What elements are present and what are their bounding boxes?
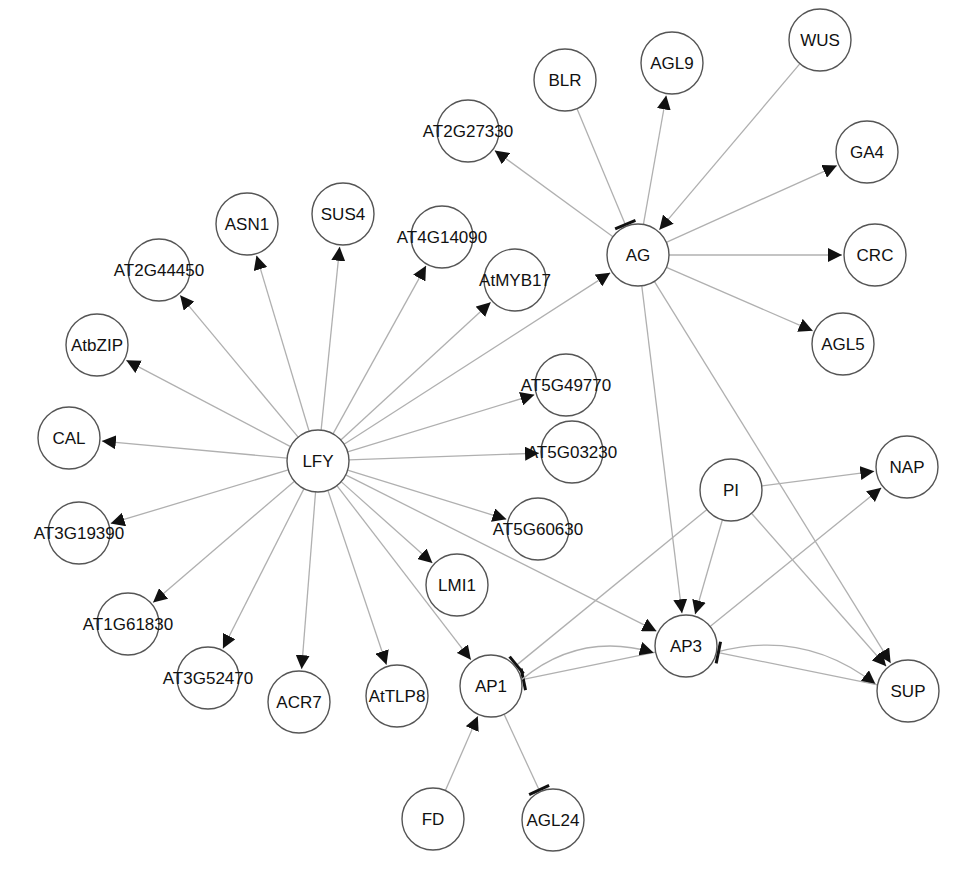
edge-lfy-activates-at5g03230 bbox=[349, 453, 539, 460]
node-wus[interactable]: WUS bbox=[789, 9, 851, 71]
node-lfy[interactable]: LFY bbox=[287, 430, 349, 492]
node-label: PI bbox=[723, 481, 739, 500]
node-at5g49770[interactable]: AT5G49770 bbox=[521, 354, 611, 416]
node-at1g61830[interactable]: AT1G61830 bbox=[83, 593, 173, 655]
node-label: CAL bbox=[52, 429, 85, 448]
node-crc[interactable]: CRC bbox=[844, 224, 906, 286]
node-label: AtbZIP bbox=[71, 336, 123, 355]
node-label: ACR7 bbox=[276, 693, 321, 712]
edge-lfy-activates-atbzip bbox=[126, 360, 290, 446]
node-label: AT5G49770 bbox=[521, 376, 611, 395]
node-asn1[interactable]: ASN1 bbox=[216, 193, 278, 255]
edge-lfy-activates-acr7 bbox=[302, 492, 316, 669]
node-label: SUP bbox=[891, 682, 926, 701]
node-cal[interactable]: CAL bbox=[38, 407, 100, 469]
node-at5g03230[interactable]: AT5G03230 bbox=[527, 421, 617, 483]
node-ga4[interactable]: GA4 bbox=[836, 121, 898, 183]
network-diagram: LFYAGBLRAGL9WUSGA4CRCAGL5AT2G27330ASN1SU… bbox=[0, 0, 965, 874]
node-nap[interactable]: NAP bbox=[876, 436, 938, 498]
edge-fd-activates-ap1 bbox=[445, 716, 477, 790]
node-lmi1[interactable]: LMI1 bbox=[426, 554, 488, 616]
node-attlp8[interactable]: AtTLP8 bbox=[366, 665, 428, 727]
edge-ag-activates-agl5 bbox=[666, 267, 812, 331]
node-label: AT2G44450 bbox=[114, 261, 204, 280]
node-agl9[interactable]: AGL9 bbox=[641, 32, 703, 94]
node-label: AT1G61830 bbox=[83, 615, 173, 634]
edge-ap3-represses-ap1 bbox=[523, 652, 655, 679]
node-ag[interactable]: AG bbox=[607, 224, 669, 286]
node-label: AtMYB17 bbox=[479, 271, 551, 290]
edge-lfy-activates-attlp8 bbox=[328, 490, 387, 664]
node-label: AGL9 bbox=[650, 54, 693, 73]
edge-ag-activates-at2g27330 bbox=[495, 150, 613, 236]
edge-ag-activates-agl9 bbox=[643, 95, 666, 224]
node-label: AT2G27330 bbox=[423, 122, 513, 141]
node-label: AT3G19390 bbox=[34, 524, 124, 543]
edge-lfy-activates-ap3 bbox=[346, 475, 657, 631]
edge-ag-activates-ap3 bbox=[642, 286, 682, 613]
node-at4g14090[interactable]: AT4G14090 bbox=[397, 206, 487, 268]
edge-lfy-activates-asn1 bbox=[256, 256, 309, 432]
node-fd[interactable]: FD bbox=[402, 788, 464, 850]
edge-lfy-activates-at3g52470 bbox=[223, 489, 304, 649]
node-atbzip[interactable]: AtbZIP bbox=[66, 314, 128, 376]
node-label: AGL24 bbox=[527, 811, 580, 830]
edge-pi-activates-nap bbox=[762, 471, 875, 486]
node-blr[interactable]: BLR bbox=[534, 49, 596, 111]
node-at3g19390[interactable]: AT3G19390 bbox=[34, 502, 124, 564]
node-label: AT3G52470 bbox=[163, 669, 253, 688]
node-atmyb17[interactable]: AtMYB17 bbox=[479, 249, 551, 311]
edge-ap1-activates-ap3 bbox=[521, 646, 653, 680]
node-acr7[interactable]: ACR7 bbox=[268, 671, 330, 733]
node-label: AG bbox=[626, 246, 651, 265]
nodes-layer: LFYAGBLRAGL9WUSGA4CRCAGL5AT2G27330ASN1SU… bbox=[34, 9, 939, 851]
edge-lfy-activates-sus4 bbox=[321, 247, 340, 430]
node-label: CRC bbox=[857, 246, 894, 265]
edge-lfy-activates-cal bbox=[102, 441, 287, 458]
node-label: FD bbox=[422, 810, 445, 829]
node-label: AP1 bbox=[475, 677, 507, 696]
node-label: AT5G03230 bbox=[527, 443, 617, 462]
node-agl24[interactable]: AGL24 bbox=[522, 789, 584, 851]
node-pi[interactable]: PI bbox=[700, 459, 762, 521]
node-at2g44450[interactable]: AT2G44450 bbox=[114, 239, 204, 301]
node-label: NAP bbox=[890, 458, 925, 477]
edge-blr-represses-ag bbox=[577, 109, 625, 225]
node-label: AP3 bbox=[670, 637, 702, 656]
node-agl5[interactable]: AGL5 bbox=[812, 313, 874, 375]
node-label: AT4G14090 bbox=[397, 228, 487, 247]
edge-lfy-activates-atmyb17 bbox=[341, 302, 491, 440]
edge-lfy-activates-at4g14090 bbox=[333, 266, 426, 434]
edge-ag-activates-ga4 bbox=[666, 166, 837, 243]
node-sus4[interactable]: SUS4 bbox=[312, 183, 374, 245]
node-label: WUS bbox=[800, 31, 840, 50]
edge-pi-activates-ap3 bbox=[695, 520, 722, 615]
node-at5g60630[interactable]: AT5G60630 bbox=[493, 498, 583, 560]
edge-lfy-activates-at1g61830 bbox=[153, 481, 294, 602]
node-label: BLR bbox=[548, 71, 581, 90]
edge-lfy-activates-at3g19390 bbox=[111, 470, 289, 524]
edge-ap3-activates-sup bbox=[716, 645, 875, 684]
node-label: AGL5 bbox=[821, 335, 864, 354]
node-label: SUS4 bbox=[321, 205, 365, 224]
node-at2g27330[interactable]: AT2G27330 bbox=[423, 100, 513, 162]
node-ap1[interactable]: AP1 bbox=[460, 655, 522, 717]
node-label: AtTLP8 bbox=[369, 687, 426, 706]
edge-lfy-activates-at2g44450 bbox=[180, 295, 298, 437]
edge-pi-activates-sup bbox=[751, 513, 886, 666]
node-at3g52470[interactable]: AT3G52470 bbox=[163, 647, 253, 709]
node-label: ASN1 bbox=[225, 215, 269, 234]
edge-lfy-activates-at5g60630 bbox=[348, 470, 507, 519]
node-label: GA4 bbox=[850, 143, 884, 162]
node-label: LFY bbox=[302, 452, 333, 471]
node-sup[interactable]: SUP bbox=[877, 660, 939, 722]
node-ap3[interactable]: AP3 bbox=[655, 615, 717, 677]
node-label: AT5G60630 bbox=[493, 520, 583, 539]
node-label: LMI1 bbox=[438, 576, 476, 595]
edge-ap1-represses-agl24 bbox=[504, 714, 539, 790]
